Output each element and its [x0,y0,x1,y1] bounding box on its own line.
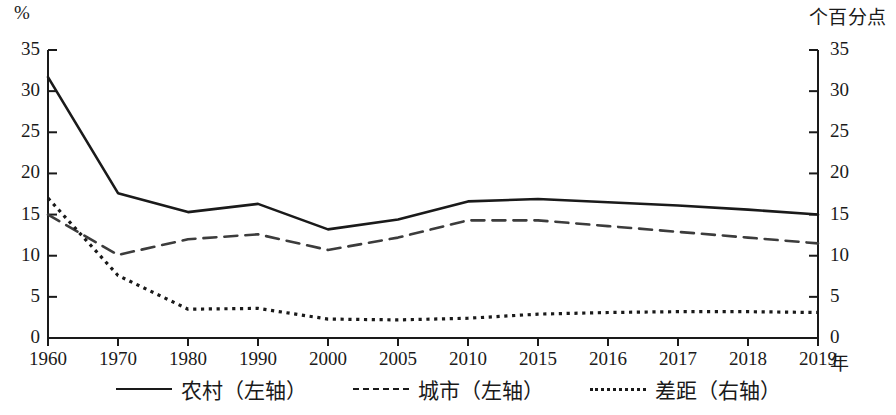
legend-label: 差距（右轴） [655,374,781,404]
right-axis-tick-label: 35 [830,38,870,60]
legend-item-1[interactable]: 农村（左轴） [116,374,307,404]
series-line-3 [48,198,818,320]
series-line-2 [48,215,818,255]
right-axis-tick-label: 15 [830,203,870,225]
right-axis-tick-label: 20 [830,161,870,183]
right-axis-tick-label: 5 [830,285,870,307]
right-axis-tick-label: 10 [830,244,870,266]
legend-item-3[interactable]: 差距（右轴） [590,374,781,404]
x-axis-tick-label: 1960 [29,348,67,370]
right-axis-tick-label: 30 [830,79,870,101]
legend-item-2[interactable]: 城市（左轴） [353,374,544,404]
x-axis-tick-label: 2010 [449,348,487,370]
legend-label: 农村（左轴） [181,374,307,404]
x-axis-tick-label: 2018 [729,348,767,370]
right-axis-tick-label: 0 [830,326,870,348]
legend-line-sample-solid-icon [116,388,172,390]
left-axis-tick-label: 5 [0,285,40,307]
left-axis-tick-label: 20 [0,161,40,183]
legend-label: 城市（左轴） [418,374,544,404]
legend-line-sample-dashed-icon [353,388,409,390]
x-axis-tick-label: 2015 [519,348,557,370]
chart-container: % 个百分点 05101520253035 05101520253035 196… [0,0,896,415]
right-axis-tick-label: 25 [830,120,870,142]
left-axis-tick-label: 30 [0,79,40,101]
x-axis-tick-label: 2017 [659,348,697,370]
x-axis-unit-label: 年 [830,348,849,375]
left-axis-tick-label: 25 [0,120,40,142]
left-axis-tick-label: 0 [0,326,40,348]
x-axis-tick-label: 2016 [589,348,627,370]
series-line-1 [48,77,818,229]
left-axis-tick-label: 15 [0,203,40,225]
chart-legend: 农村（左轴）城市（左轴）差距（右轴） [0,374,896,404]
x-axis-tick-label: 1970 [99,348,137,370]
legend-line-sample-dotted-icon [590,388,646,391]
left-axis-tick-label: 10 [0,244,40,266]
x-axis-tick-label: 1980 [169,348,207,370]
x-axis-tick-label: 2005 [379,348,417,370]
x-axis-tick-label: 1990 [239,348,277,370]
left-axis-tick-label: 35 [0,38,40,60]
axis-frame [48,50,818,338]
x-axis-tick-label: 2000 [309,348,347,370]
